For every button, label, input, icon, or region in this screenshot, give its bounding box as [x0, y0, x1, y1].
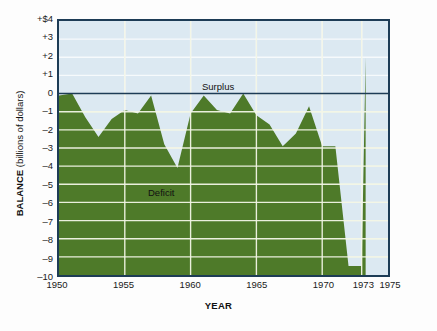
chart-page: +$4+3+2+10–1–2–3–4–5–6–7–8–9–10 BALANCE … [0, 0, 437, 331]
y-axis-tick-neg5: –5 [23, 180, 53, 190]
y-axis-tick-neg2: –2 [23, 125, 53, 135]
y-axis-tick-neg9: –9 [23, 254, 53, 264]
plot-area [57, 19, 390, 277]
x-axis-tick-1965: 1965 [246, 280, 267, 290]
x-axis-tick-1975: 1975 [379, 280, 400, 290]
x-axis-tick-1973: 1973 [353, 280, 374, 290]
y-axis-tick-neg1: –1 [23, 106, 53, 116]
x-axis-title: YEAR [0, 300, 437, 311]
deficit-annotation: Deficit [148, 187, 174, 198]
x-axis-tick-1970: 1970 [313, 280, 334, 290]
y-axis-tick-neg4: –4 [23, 162, 53, 172]
y-axis-tick-neg6: –6 [23, 199, 53, 209]
y-axis-tick-1: +1 [23, 70, 53, 80]
x-axis-tick-labels: 1950195519601965197019731975 [0, 280, 437, 294]
surplus-annotation: Surplus [202, 81, 234, 92]
y-axis-tick-3: +3 [23, 33, 53, 43]
y-axis-title-bold: BALANCE [14, 170, 25, 216]
y-axis-title: BALANCE (billions of dollars) [14, 69, 25, 239]
y-axis-tick-neg8: –8 [23, 235, 53, 245]
x-axis-tick-1960: 1960 [180, 280, 201, 290]
x-axis-tick-1955: 1955 [113, 280, 134, 290]
y-axis-title-rest: (billions of dollars) [14, 91, 25, 170]
y-axis-tick-4: +$4 [23, 14, 53, 24]
y-axis-tick-neg7: –7 [23, 217, 53, 227]
y-axis-tick-0: 0 [23, 88, 53, 98]
area-chart-svg [59, 21, 388, 275]
y-axis-tick-neg3: –3 [23, 143, 53, 153]
x-axis-tick-1950: 1950 [46, 280, 67, 290]
y-axis-tick-2: +2 [23, 51, 53, 61]
